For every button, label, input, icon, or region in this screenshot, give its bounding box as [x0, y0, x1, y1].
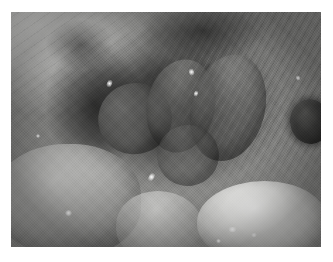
- specular-highlight-cavity-low: [147, 171, 157, 182]
- specular-highlight-right-margin: [295, 75, 301, 82]
- surgical-photograph: open surgical / endoscopic still photogr…: [11, 12, 321, 247]
- specular-highlight-lower-left: [65, 210, 72, 216]
- specular-highlight-bright-mass-1: [228, 227, 237, 232]
- photo-alt-text: open surgical / endoscopic still photogr…: [11, 12, 12, 13]
- dark-oval-structure-right: [288, 97, 321, 146]
- bright-glistening-mass-bottom-right: [197, 181, 321, 247]
- specular-highlight-left-edge: [36, 134, 40, 138]
- pale-mass-bottom-center: [116, 191, 203, 247]
- specular-highlight-cavity-left: [106, 78, 114, 88]
- page-canvas: open surgical / endoscopic still photogr…: [0, 0, 333, 262]
- specular-highlight-bright-mass-3: [216, 239, 221, 243]
